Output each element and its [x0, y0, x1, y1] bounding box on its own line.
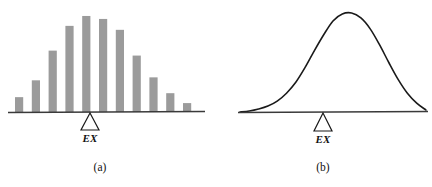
bar	[133, 56, 141, 112]
bell-curve-line	[240, 13, 426, 112]
bar-series	[15, 16, 191, 112]
panel-caption-b: (b)	[293, 162, 353, 174]
bar	[183, 103, 191, 112]
mean-label-b: EX	[303, 134, 343, 145]
bar	[49, 51, 57, 112]
panel-a: EX (a)	[0, 0, 216, 187]
bar	[82, 16, 90, 112]
mean-marker-triangle-b	[314, 113, 332, 131]
mean-label-a: EX	[70, 133, 110, 144]
bar	[149, 77, 157, 112]
figure-container: EX (a) EX (b)	[0, 0, 432, 187]
panel-b: EX (b)	[216, 0, 432, 187]
bar	[15, 97, 23, 112]
baseline-b	[238, 112, 428, 113]
panel-caption-a: (a)	[70, 162, 130, 174]
bar	[32, 80, 40, 112]
panel-b-plot	[216, 0, 432, 150]
bar	[99, 19, 107, 112]
bar	[166, 93, 174, 112]
panel-a-plot	[0, 0, 216, 150]
bar	[116, 30, 124, 112]
mean-marker-triangle-a	[81, 113, 99, 130]
baseline-a	[8, 112, 205, 113]
bar	[65, 26, 73, 112]
